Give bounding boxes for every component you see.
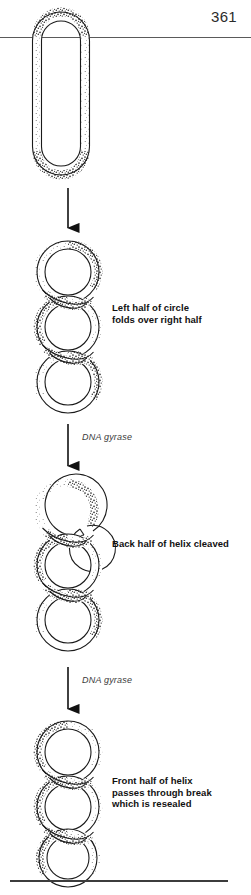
stage-3-cleaved-helix	[37, 474, 115, 651]
stage-2-folded-figure-eight	[37, 241, 99, 413]
stage-1-relaxed-circle	[33, 12, 90, 175]
dna-gyrase-diagram	[0, 0, 251, 895]
ribbon-band-fill	[37, 12, 85, 175]
enzyme-label-dna-gyrase-first: DNA gyrase	[82, 432, 132, 442]
caption-fold: Left half of circle folds over right hal…	[112, 302, 202, 325]
caption-reseal: Front half of helix passes through break…	[112, 775, 212, 810]
stipple-loop1	[68, 245, 98, 288]
enzyme-label-dna-gyrase-second: DNA gyrase	[82, 675, 132, 685]
footer-rule	[10, 880, 228, 882]
stipple-bottom-arc	[37, 151, 85, 175]
stipple-top-arc	[37, 12, 85, 36]
stage-4-resealed-helix	[37, 721, 99, 887]
ribbon-inner-edge	[42, 21, 81, 166]
book-page: 361	[0, 0, 251, 895]
caption-cleave: Back half of helix cleaved	[112, 538, 229, 550]
